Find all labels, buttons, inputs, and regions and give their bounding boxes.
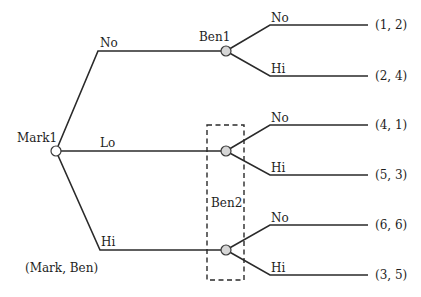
payoff-2: (2, 4) bbox=[375, 69, 407, 83]
label-ben2: Ben2 bbox=[211, 196, 242, 210]
edge-mark-hi bbox=[56, 151, 226, 250]
label-mark-hi: Hi bbox=[101, 235, 115, 249]
label-ben2a-no: No bbox=[271, 111, 289, 125]
label-ben1-hi: Hi bbox=[271, 62, 285, 76]
edge-ben2b-no bbox=[226, 225, 368, 250]
game-tree: Mark1 Ben1 Ben2 No Lo Hi No Hi No Hi No … bbox=[0, 0, 421, 297]
label-mark-lo: Lo bbox=[100, 136, 115, 150]
label-ben2b-no: No bbox=[271, 211, 289, 225]
label-ben1: Ben1 bbox=[199, 30, 230, 44]
label-mark1: Mark1 bbox=[17, 131, 57, 145]
node-ben1 bbox=[221, 46, 231, 56]
payoff-1: (1, 2) bbox=[375, 18, 407, 32]
edge-mark-no bbox=[56, 51, 226, 151]
edge-ben2a-hi bbox=[226, 151, 368, 175]
payoff-6: (3, 5) bbox=[375, 268, 407, 282]
label-ben2b-hi: Hi bbox=[271, 261, 285, 275]
node-mark1 bbox=[51, 146, 61, 156]
payoff-5: (6, 6) bbox=[375, 218, 407, 232]
edge-ben2a-no bbox=[226, 125, 368, 151]
node-ben2-lo bbox=[221, 146, 231, 156]
label-ben1-no: No bbox=[271, 11, 289, 25]
payoff-3: (4, 1) bbox=[375, 118, 407, 132]
label-ben2a-hi: Hi bbox=[271, 161, 285, 175]
edge-ben1-no bbox=[226, 25, 368, 51]
node-ben2-hi bbox=[221, 245, 231, 255]
payoff-4: (5, 3) bbox=[375, 168, 407, 182]
label-mark-no: No bbox=[100, 36, 118, 50]
payoff-order-legend: (Mark, Ben) bbox=[25, 261, 98, 275]
edge-ben1-hi bbox=[226, 51, 368, 76]
edge-ben2b-hi bbox=[226, 250, 368, 275]
